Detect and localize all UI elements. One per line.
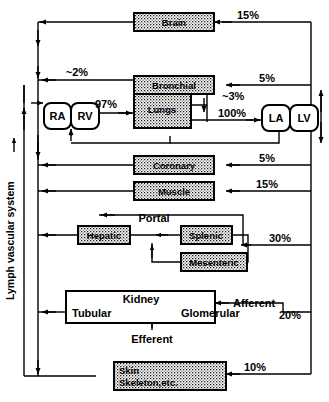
organ-label-mesenteric: Mesenteric bbox=[189, 257, 239, 268]
organ-box-bronchial: Bronchial bbox=[134, 76, 214, 94]
kidney-glomerular-label: Glomerular bbox=[181, 307, 240, 319]
chamber-la: LA bbox=[262, 105, 290, 131]
label-renal-pct: 20% bbox=[279, 309, 301, 321]
kidney-title: Kidney bbox=[123, 293, 161, 305]
organ-label-skin: Skin bbox=[119, 365, 139, 376]
label-lung-shunt-pct: ~3% bbox=[222, 90, 245, 102]
chamber-label-ra: RA bbox=[50, 110, 66, 122]
systemic-return-to-rv bbox=[71, 136, 170, 143]
label-bronchial-pct: 5% bbox=[259, 72, 275, 84]
label-coronary-pct: 5% bbox=[259, 152, 275, 164]
diagram-canvas: Brain Bronchial Lungs Coronary Muscle He… bbox=[0, 0, 329, 402]
label-rv-output-pct: 97% bbox=[95, 98, 117, 110]
label-bronchial-shunt-pct: ~2% bbox=[66, 66, 89, 78]
organ-label-bronchial: Bronchial bbox=[152, 80, 196, 91]
chamber-label-lv: LV bbox=[297, 112, 311, 124]
label-efferent: Efferent bbox=[131, 333, 173, 345]
label-lv-output-pct: 100% bbox=[218, 107, 246, 119]
organ-label-coronary: Coronary bbox=[153, 160, 196, 171]
organ-box-coronary: Coronary bbox=[134, 156, 214, 174]
organ-label-lungs: Lungs bbox=[148, 104, 177, 115]
organ-box-lungs: Lungs bbox=[134, 94, 191, 128]
chamber-label-la: LA bbox=[269, 112, 284, 124]
chamber-label-rv: RV bbox=[77, 110, 93, 122]
chamber-lv: LV bbox=[290, 105, 318, 131]
organ-box-mesenteric: Mesenteric bbox=[181, 253, 247, 271]
label-afferent: Afferent bbox=[233, 297, 276, 309]
side-axis-label: Lymph vascular system bbox=[4, 181, 16, 300]
organ-box-kidney: Kidney Tubular Glomerular bbox=[66, 291, 240, 323]
label-muscle-pct: 15% bbox=[256, 178, 278, 190]
organ-label-hepatic: Hepatic bbox=[87, 230, 121, 241]
coronary-sinus-line bbox=[170, 131, 279, 143]
organ-label-skeleton: Skeleton,etc. bbox=[119, 377, 178, 388]
circulation-diagram: Brain Bronchial Lungs Coronary Muscle He… bbox=[0, 0, 329, 402]
label-skin-pct: 10% bbox=[244, 361, 266, 373]
organ-box-splenic: Splenic bbox=[181, 226, 232, 244]
chamber-ra: RA bbox=[44, 103, 71, 129]
kidney-tubular-label: Tubular bbox=[72, 307, 112, 319]
organ-box-hepatic: Hepatic bbox=[78, 226, 130, 244]
label-brain-pct: 15% bbox=[237, 9, 259, 21]
organ-label-splenic: Splenic bbox=[189, 230, 223, 241]
side-axis: Lymph vascular system bbox=[4, 138, 16, 300]
label-splanchnic-pct: 30% bbox=[269, 232, 291, 244]
organ-label-brain: Brain bbox=[162, 17, 186, 28]
organ-box-brain: Brain bbox=[134, 13, 214, 31]
label-portal: Portal bbox=[138, 212, 169, 224]
organ-box-muscle: Muscle bbox=[134, 182, 214, 200]
organ-label-muscle: Muscle bbox=[158, 186, 190, 197]
organ-box-skin: Skin Skeleton,etc. bbox=[114, 362, 226, 390]
